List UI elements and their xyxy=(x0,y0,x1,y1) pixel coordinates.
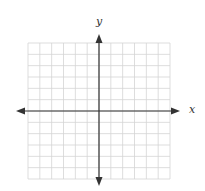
y-axis-label: y xyxy=(96,16,102,27)
coordinate-plane xyxy=(0,0,205,191)
y-axis xyxy=(96,34,103,186)
x-axis-label: x xyxy=(189,104,195,115)
y-axis-up-arrow-icon xyxy=(96,34,103,43)
x-axis-left-arrow-icon xyxy=(16,108,25,115)
y-axis-down-arrow-icon xyxy=(96,177,103,186)
x-axis-right-arrow-icon xyxy=(171,108,180,115)
x-axis xyxy=(16,108,180,115)
